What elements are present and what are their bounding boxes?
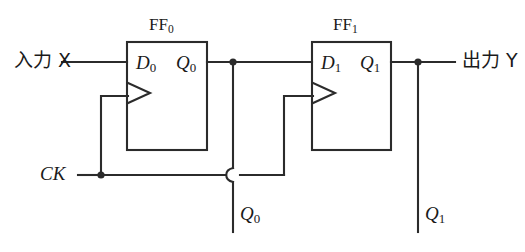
- junction-dot-ck: [97, 171, 104, 178]
- tap-q1-label: Q1: [425, 204, 445, 226]
- clock-ck-label: CK: [40, 164, 65, 183]
- circuit-diagram-canvas: FF0 FF1 D0 Q0 D1 Q1 入力 X 出力 Y CK Q0 Q1: [0, 0, 525, 252]
- schematic-svg: [0, 0, 525, 252]
- junction-dot-q0: [229, 58, 236, 65]
- wire-hop-q0-over-ck: [226, 168, 233, 182]
- wire-ck-to-ff0-clock: [101, 96, 128, 175]
- flipflop-0-title: FF0: [149, 16, 174, 35]
- wire-ck-to-ff1-clock: [284, 96, 313, 175]
- flipflop-1-clock-triangle: [313, 83, 335, 103]
- flipflop-0-clock-triangle: [128, 83, 150, 103]
- tap-q0-label: Q0: [240, 204, 260, 226]
- flipflop-0-q-port-label: Q0: [176, 53, 196, 75]
- output-y-label: 出力 Y: [462, 51, 518, 70]
- flipflop-1-title: FF1: [333, 16, 358, 35]
- flipflop-1-q-port-label: Q1: [360, 53, 380, 75]
- flipflop-1-d-port-label: D1: [321, 53, 341, 75]
- junction-dot-q1: [414, 58, 421, 65]
- input-x-label: 入力 X: [14, 51, 71, 70]
- flipflop-0-d-port-label: D0: [136, 53, 156, 75]
